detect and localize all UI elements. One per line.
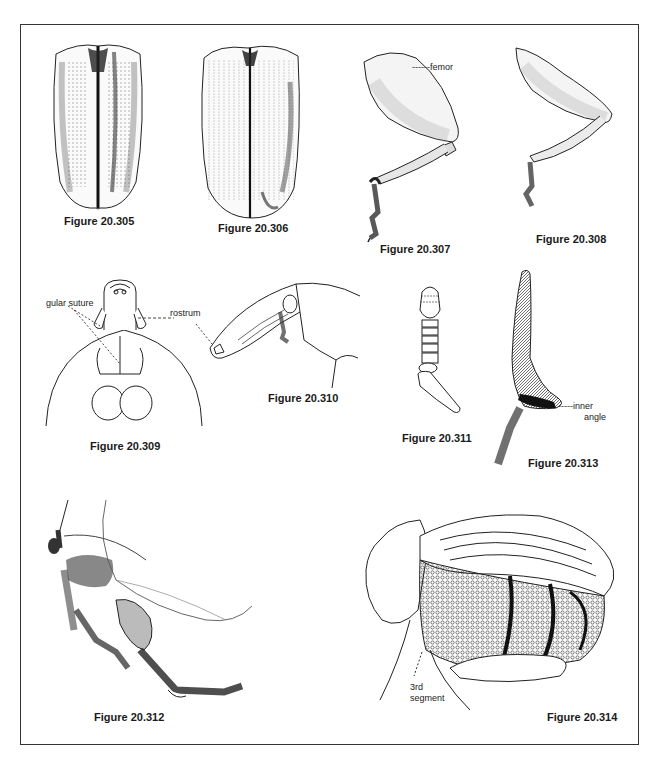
figure-20-305-illustration [48,42,148,212]
figure-20-314-illustration [360,500,630,710]
label-3rd-text: 3rd [410,682,423,692]
figure-20-306-illustration [198,42,304,220]
figure-caption-20-305: Figure 20.305 [64,215,134,227]
label-angle-text: angle [584,412,606,422]
figure-caption-20-309: Figure 20.309 [90,440,160,452]
label-rostrum: rostrum [170,308,201,318]
label-femor: ------femor [412,62,453,72]
figure-20-313-illustration [496,268,576,468]
figure-20-307-illustration [360,42,470,242]
figure-caption-20-308: Figure 20.308 [536,233,606,245]
figure-caption-20-311: Figure 20.311 [402,432,472,444]
figure-20-311-illustration [406,282,466,422]
figure-caption-20-307: Figure 20.307 [380,243,450,255]
figure-20-308-illustration [514,44,624,214]
figure-caption-20-313: Figure 20.313 [528,457,598,469]
figure-caption-20-306: Figure 20.306 [218,222,288,234]
figure-20-310-illustration [200,282,360,392]
label-segment-text: segment [410,693,445,703]
figure-20-312-illustration [46,500,266,712]
label-inner-angle: -----inner angle [558,401,606,423]
label-gular-suture: gular suture [46,298,94,308]
figure-caption-20-312: Figure 20.312 [94,711,164,723]
label-femor-text: femor [430,62,453,72]
label-3rd-segment: 3rd segment [410,682,445,704]
figure-caption-20-310: Figure 20.310 [268,392,338,404]
figure-caption-20-314: Figure 20.314 [547,711,617,723]
label-inner-text: inner [573,401,593,411]
